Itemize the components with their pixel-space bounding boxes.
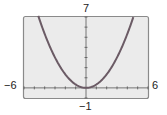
ymin-label: −1 (79, 101, 92, 112)
graph-screen (0, 0, 167, 115)
ymax-label: 7 (83, 3, 89, 14)
xmin-label: −6 (4, 80, 17, 91)
xmax-label: 6 (152, 80, 158, 91)
